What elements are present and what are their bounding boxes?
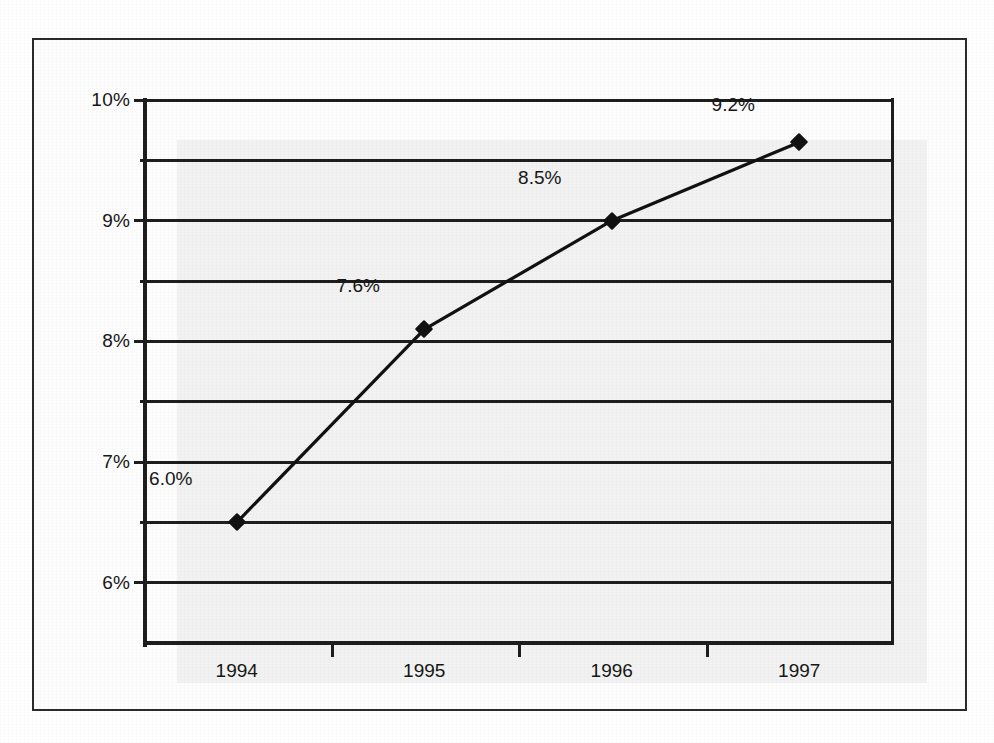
gridline (143, 581, 893, 584)
gridline (143, 280, 893, 283)
y-axis-labels: 6%7%8%9%10% (60, 0, 130, 743)
gridline (143, 521, 893, 524)
x-tick-label: 1996 (552, 660, 672, 682)
y-tick-mark-minor (140, 159, 148, 162)
y-tick-label: 8% (70, 330, 130, 352)
data-point-label: 6.0% (149, 468, 192, 490)
x-tick-mark (706, 645, 709, 657)
y-tick-mark (134, 99, 147, 102)
y-tick-mark (134, 219, 147, 222)
gridline (143, 219, 893, 222)
y-tick-mark-minor (140, 521, 148, 524)
gridline (143, 461, 893, 464)
y-tick-mark (134, 340, 147, 343)
figure-frame (32, 38, 967, 711)
x-tick-label: 1995 (364, 660, 484, 682)
x-tick-label: 1997 (739, 660, 859, 682)
y-tick-label: 10% (70, 89, 130, 111)
y-tick-mark (134, 461, 147, 464)
gridline (143, 159, 893, 162)
x-tick-mark (518, 645, 521, 657)
gridline (143, 340, 893, 343)
figure-caption (150, 726, 850, 743)
data-point-label: 8.5% (518, 167, 561, 189)
gridline (143, 400, 893, 403)
x-tick-mark (331, 645, 334, 657)
gridline (143, 99, 893, 102)
data-point-label: 9.2% (712, 94, 755, 116)
y-tick-mark-minor (140, 280, 148, 283)
y-axis-line (143, 98, 147, 647)
x-tick-label: 1994 (177, 660, 297, 682)
y-tick-mark (134, 581, 147, 584)
y-tick-label: 9% (70, 210, 130, 232)
y-tick-label: 6% (70, 572, 130, 594)
y-tick-label: 7% (70, 451, 130, 473)
plot-right-edge (891, 98, 894, 645)
y-tick-mark-minor (140, 400, 148, 403)
scanned-page: 6%7%8%9%10% 6.0%7.6%8.5%9.2% 19941995199… (0, 0, 994, 743)
data-point-label: 7.6% (337, 275, 380, 297)
